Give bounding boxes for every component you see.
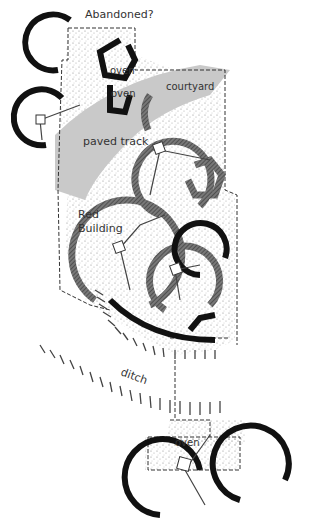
label-oven-2: oven: [111, 88, 136, 99]
label-red-building-2: Building: [78, 222, 123, 235]
label-oven-1: oven: [110, 65, 135, 76]
label-courtyard: courtyard: [166, 81, 214, 92]
label-oven-3: oven: [175, 437, 200, 448]
label-red-building-1: Red: [78, 208, 99, 221]
label-ditch: ditch: [119, 366, 149, 388]
label-abandoned: Abandoned?: [85, 8, 154, 21]
label-paved-track: paved track: [83, 135, 149, 148]
site-plan: Abandoned? oven oven courtyard paved tra…: [0, 0, 315, 529]
